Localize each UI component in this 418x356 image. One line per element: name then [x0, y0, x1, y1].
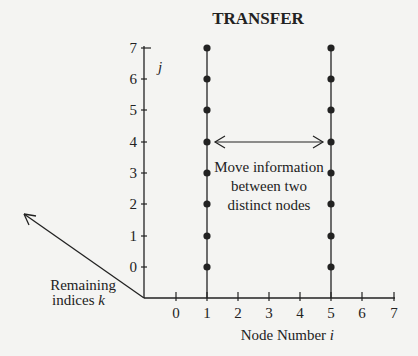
svg-text:0: 0 — [172, 305, 180, 321]
svg-text:1: 1 — [130, 228, 138, 244]
svg-text:between two: between two — [231, 178, 307, 194]
svg-text:3: 3 — [265, 305, 273, 321]
svg-text:distinct nodes: distinct nodes — [228, 197, 311, 213]
y-tick-labels: 7 6 5 4 3 2 1 0 — [130, 40, 138, 275]
svg-text:3: 3 — [130, 165, 138, 181]
transfer-diagram: TRANSFER 7 6 5 4 3 2 1 0 j 0 1 2 3 — [0, 0, 418, 356]
svg-text:1: 1 — [203, 305, 211, 321]
x-tick-labels: 0 1 2 3 4 5 6 7 — [172, 305, 398, 321]
svg-text:0: 0 — [130, 259, 138, 275]
svg-text:2: 2 — [130, 196, 138, 212]
y-ticks — [141, 48, 151, 267]
svg-text:4: 4 — [130, 134, 138, 150]
y-axis-var: j — [156, 59, 162, 75]
svg-text:6: 6 — [130, 71, 138, 87]
svg-text:5: 5 — [130, 102, 138, 118]
diagram-title: TRANSFER — [212, 9, 304, 28]
svg-text:Move information: Move information — [214, 159, 324, 175]
svg-text:4: 4 — [296, 305, 304, 321]
svg-text:7: 7 — [130, 40, 138, 56]
annotation: Move information between two distinct no… — [214, 159, 324, 213]
k-axis-label-line1: Remaining — [50, 277, 116, 293]
svg-text:7: 7 — [390, 305, 398, 321]
svg-text:6: 6 — [358, 305, 366, 321]
svg-text:2: 2 — [234, 305, 242, 321]
x-axis-label: Node Number i — [241, 327, 334, 343]
svg-text:5: 5 — [327, 305, 335, 321]
x-ticks — [176, 292, 394, 301]
k-axis-label-line2: indices k — [52, 292, 105, 308]
